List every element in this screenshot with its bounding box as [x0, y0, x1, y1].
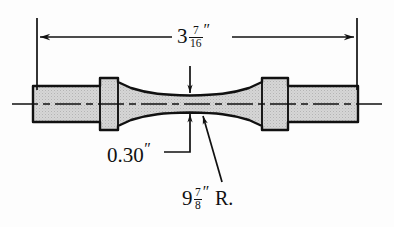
radius-leader-arrow: [203, 116, 222, 182]
technical-drawing: 3716″ 0.30″ 978″R.: [0, 0, 394, 227]
radius-suffix: R.: [215, 187, 233, 209]
overall-length-whole: 3: [177, 24, 188, 48]
neck-leader-jog: [164, 137, 190, 152]
inch-mark-icon: ″: [144, 141, 150, 157]
waist-radius-fraction: 78: [194, 187, 202, 212]
radius-leader: [203, 116, 222, 182]
overall-length-label: 3716″: [177, 22, 210, 50]
overall-length-fraction: 716: [189, 25, 203, 50]
overall-length-denominator: 16: [189, 38, 203, 50]
neck-diameter-value: 0.30: [107, 143, 144, 167]
inch-mark-icon: ″: [204, 22, 210, 38]
waist-radius-numerator: 7: [194, 187, 202, 200]
waist-radius-whole: 9: [182, 186, 193, 210]
neck-diameter-label: 0.30″: [107, 141, 150, 166]
waist-radius-label: 978″R.: [182, 184, 233, 212]
overall-length-numerator: 7: [189, 25, 203, 38]
inch-mark-icon: ″: [203, 184, 209, 200]
waist-radius-denominator: 8: [194, 200, 202, 212]
